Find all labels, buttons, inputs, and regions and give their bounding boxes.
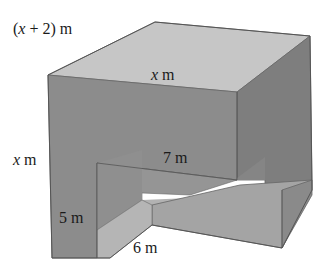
label-notch-height: 5 m	[59, 210, 83, 226]
label-width: x m	[151, 67, 175, 83]
right-face-lower	[282, 180, 312, 248]
label-depth: (x + 2) m	[13, 21, 72, 37]
label-height-unit: m	[20, 151, 36, 168]
label-notch-width: 6 m	[133, 240, 157, 256]
label-notch-depth: 7 m	[163, 150, 187, 166]
solid-diagram	[0, 0, 328, 275]
label-depth-rest: + 2) m	[25, 20, 72, 37]
label-height: x m	[13, 152, 37, 168]
label-width-unit: m	[158, 66, 174, 83]
